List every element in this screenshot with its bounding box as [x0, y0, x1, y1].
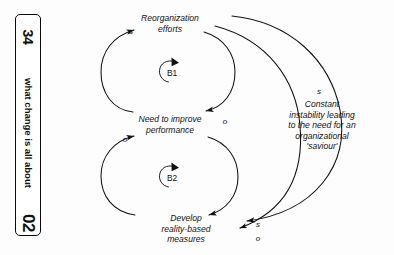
node-reorganization-efforts: Reorganization efforts	[141, 13, 199, 34]
node-develop-reality-based-measures: Develop reality-based measures	[161, 213, 210, 245]
loop-arrowhead-b1	[172, 58, 180, 67]
polarity-label-outer-bottom-o: o	[256, 234, 260, 243]
page-canvas: 34 what change is all about 02	[0, 0, 394, 255]
link-measures-to-need	[101, 136, 135, 215]
polarity-label-bottom-left-o: o	[123, 135, 127, 144]
link-need-to-reorganization	[101, 30, 134, 112]
link-reorganization-to-need	[204, 32, 235, 111]
node-need-to-improve-performance: Need to improve performance	[138, 114, 201, 135]
polarity-label-outer-s: s	[317, 87, 321, 96]
polarity-label-top-right-o: o	[223, 117, 227, 126]
loop-label-b1: B1	[167, 68, 177, 78]
link-need-to-measures	[208, 137, 238, 215]
diagram-annotation: Constant instability leading to the need…	[286, 99, 358, 152]
polarity-label-top-left-s: s	[129, 27, 133, 36]
polarity-label-outer-bottom-s: s	[256, 220, 260, 229]
loop-label-b2: B2	[167, 173, 177, 183]
causal-loop-diagram: Reorganization efforts Need to improve p…	[0, 0, 394, 255]
loop-arrowhead-b2	[172, 163, 180, 172]
